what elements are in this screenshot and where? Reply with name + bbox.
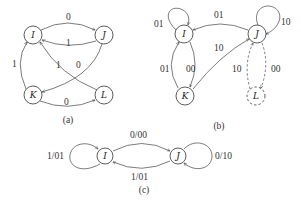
edge-label-a-K-L: 0 [64,97,69,107]
edge-b-K-I [171,42,179,88]
edge-label-a-L-I: 1 [56,60,61,70]
edge-label-a-K-I: 1 [12,59,17,69]
edge-a-L-I [40,42,97,90]
edge-c-J-I [113,161,170,168]
node-label-a-K: K [29,90,38,100]
edge-label-c-J-I: 1/01 [131,172,148,182]
diagram-a: 0 1 1 1 0 0 I J K L (a) [12,12,113,126]
node-label-b-I: I [181,29,186,39]
edge-label-c-I-I: 1/01 [47,151,64,161]
caption-c: (c) [139,185,150,196]
edge-c-I-J [113,144,170,152]
edge-b-L-J [247,43,253,89]
edge-label-a-J-I: 1 [66,38,71,48]
edge-c-J-J [184,143,212,169]
node-label-b-K: K [181,91,190,101]
edge-label-c-I-J: 0/00 [130,130,147,140]
edge-label-b-I-K: 00 [186,64,196,74]
state-diagrams: 0 1 1 1 0 0 I J K L (a) 01 01 10 01 00 1… [0,0,301,205]
edge-label-b-J-L: 00 [271,64,281,74]
edge-a-J-K [42,44,102,92]
edge-label-b-I-I: 01 [154,19,164,29]
edge-label-b-L-J: 10 [232,64,242,74]
edge-label-c-J-J: 0/10 [215,151,232,161]
diagram-c: 1/01 0/00 1/01 0/10 I J (c) [47,130,232,196]
caption-a: (a) [63,115,74,126]
edge-c-I-I [70,144,100,169]
edge-b-J-I [193,24,248,30]
node-label-b-L: L [252,91,259,101]
edge-b-J-L [261,43,266,88]
edge-a-K-I [20,42,27,89]
caption-b: (b) [213,121,224,132]
node-label-a-I: I [30,30,35,40]
node-label-a-L: L [100,90,107,100]
edge-label-b-J-I: 01 [214,10,224,20]
edge-a-I-J [41,23,95,30]
edge-label-b-K-J: 10 [214,43,224,53]
diagram-b: 01 01 10 01 00 10 10 00 I J K L (b) [154,6,291,132]
edge-label-b-K-I: 01 [160,64,170,74]
node-label-c-I: I [102,151,107,161]
edge-label-b-J-J: 10 [281,17,291,27]
edge-label-a-J-K: 0 [76,60,81,70]
edge-label-a-I-J: 0 [66,12,71,22]
